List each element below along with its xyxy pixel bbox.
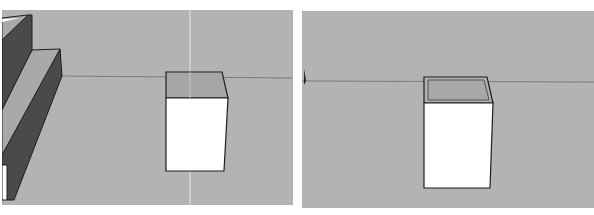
scene-left	[2, 10, 293, 205]
viewport-right[interactable]	[302, 11, 594, 208]
box-top-inset-face	[428, 80, 489, 100]
viewport-left[interactable]	[2, 10, 293, 205]
edge-marker	[304, 69, 306, 85]
scene-right	[302, 11, 594, 208]
box-front-face	[424, 103, 493, 188]
bottom-white-face	[2, 165, 7, 200]
box-front-face	[166, 98, 228, 171]
box-top-face	[166, 72, 228, 98]
